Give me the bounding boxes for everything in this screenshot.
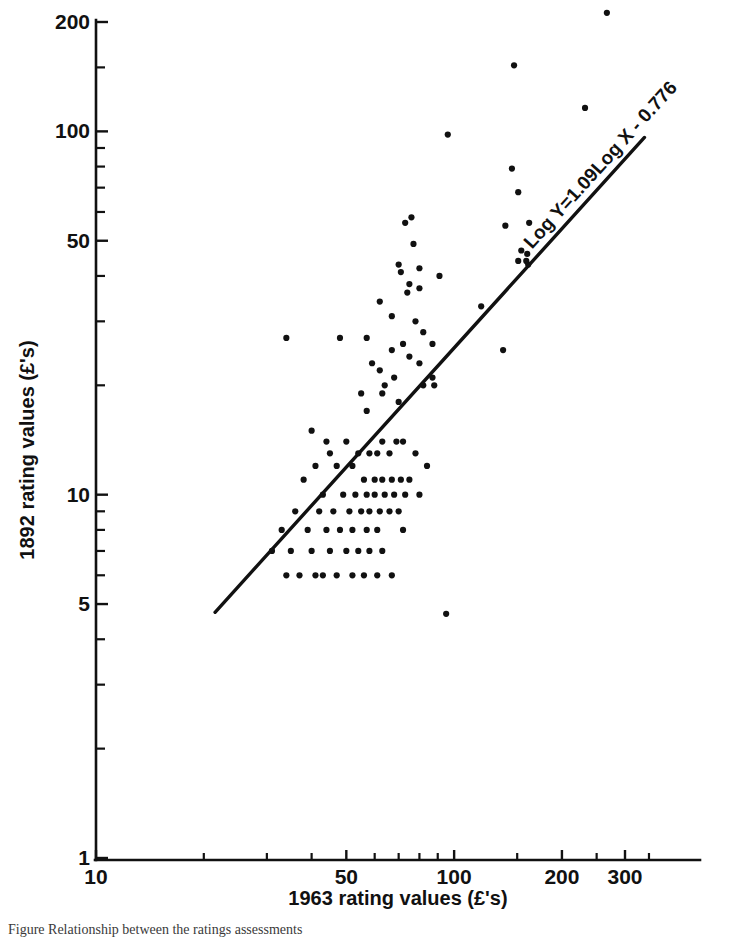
y-tick-label: 200 [55,10,90,33]
scatter-point [402,220,408,226]
scatter-point [372,492,378,498]
scatter-point [369,360,375,366]
scatter-point [396,261,402,267]
scatter-point [330,508,336,514]
scatter-point [343,438,349,444]
scatter-point [410,241,416,247]
scatter-point [377,508,383,514]
scatter-point [524,251,530,257]
scatter-point [305,527,311,533]
scatter-point [337,527,343,533]
scatter-point [412,450,418,456]
scatter-point [309,548,315,554]
scatter-point [382,382,388,388]
scatter-point [582,105,588,111]
scatter-point [386,508,392,514]
scatter-point [379,477,385,483]
regression-line [215,137,644,612]
scatter-point [374,527,380,533]
scatter-point [283,572,289,578]
scatter-point [374,450,380,456]
scatter-point [398,477,404,483]
scatter-point [416,492,422,498]
scatter-point [416,265,422,271]
scatter-point [334,572,340,578]
scatter-point [366,450,372,456]
scatter-point [377,298,383,304]
scatter-point [500,347,506,353]
scatter-point [372,477,378,483]
y-tick-label: 100 [55,119,90,142]
figure-caption: Figure Relationship between the ratings … [8,922,728,938]
scatter-point [389,572,395,578]
scatter-point [377,367,383,373]
scatter-point [604,10,610,16]
scatter-point [424,463,430,469]
scatter-point [416,285,422,291]
scatter-point [361,572,367,578]
scatter-point [312,572,318,578]
scatter-point [386,450,392,456]
scatter-point [396,399,402,405]
scatter-point [406,477,412,483]
scatter-point [515,189,521,195]
x-axis-ticks [96,850,649,860]
y-axis-title: 1892 rating values (£'s) [16,340,38,559]
y-axis-tick-labels: 151050100200 [55,10,90,869]
scatter-point [364,492,370,498]
scatter-point [416,360,422,366]
scatter-point [279,527,285,533]
scatter-point [364,335,370,341]
scatter-point [518,247,524,253]
scatter-point [320,572,326,578]
regression-equation-label: Log Y=1.09Log X - 0.776 [519,77,681,253]
scatter-point [389,347,395,353]
scatter-point [398,269,404,275]
scatter-point [358,390,364,396]
scatter-point [509,165,515,171]
scatter-point [358,508,364,514]
scatter-point [400,341,406,347]
scatter-point [352,492,358,498]
scatter-point [301,477,307,483]
scatter-point [337,335,343,341]
scatter-point [406,353,412,359]
y-tick-label: 50 [67,229,90,252]
scatter-point [420,329,426,335]
scatter-points-group [269,10,610,617]
scatter-point [283,335,289,341]
scatter-point [292,508,298,514]
scatter-point [393,438,399,444]
scatter-point [429,341,435,347]
scatter-point [389,477,395,483]
scatter-point [382,492,388,498]
scatter-point [340,492,346,498]
x-tick-label: 50 [335,865,358,888]
scatter-point [391,375,397,381]
scatter-point [408,214,414,220]
regression-line-group [215,137,644,612]
scatter-point [343,548,349,554]
scatter-point [316,508,322,514]
x-tick-label: 100 [437,865,472,888]
x-tick-label: 300 [607,865,642,888]
scatter-point [323,527,329,533]
x-tick-label: 10 [84,865,107,888]
scatter-point [349,572,355,578]
plot-canvas: 151050100200 1050100200300 Log Y=1.09Log… [0,0,736,941]
scatter-point [379,438,385,444]
scatter-point [379,548,385,554]
scatter-point [323,438,329,444]
y-tick-label: 5 [78,592,90,615]
scatter-point [309,428,315,434]
scatter-point [366,548,372,554]
x-axis-title: 1963 rating values (£'s) [288,887,507,909]
scatter-point [312,463,318,469]
scatter-point [412,318,418,324]
y-axis-ticks [96,22,108,858]
scatter-point [436,273,442,279]
scatter-point [349,527,355,533]
scatter-point [327,548,333,554]
y-tick-label: 10 [67,483,90,506]
scatter-point [404,289,410,295]
